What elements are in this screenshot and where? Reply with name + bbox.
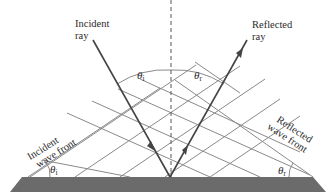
reflected-ray bbox=[170, 40, 247, 177]
theta-r-top-label: θr bbox=[194, 69, 202, 83]
reflection-diagram: Incident ray Reflected ray Incident wave… bbox=[0, 0, 328, 192]
incident-ray-label: Incident ray bbox=[75, 18, 112, 41]
reflected-ray-label: Reflected ray bbox=[252, 19, 295, 42]
theta-i-bottom-label: θi bbox=[50, 163, 58, 177]
reflecting-surface bbox=[10, 177, 326, 192]
theta-r-bottom-arc bbox=[289, 163, 293, 177]
incident-ray bbox=[93, 40, 170, 177]
theta-i-top-label: θi bbox=[137, 69, 145, 83]
theta-r-bottom-label: θr bbox=[278, 164, 286, 178]
